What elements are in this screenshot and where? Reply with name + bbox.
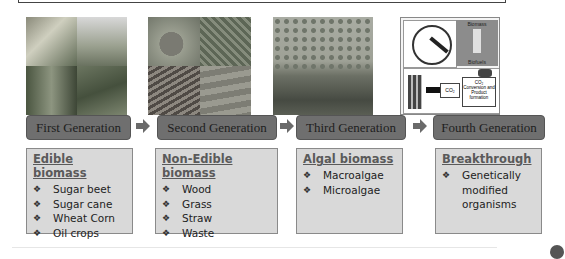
biomass-list: ❖Macroalgae ❖Microalgae — [303, 168, 396, 197]
biomass-to-biofuels-panel: Biomass Biofuels — [456, 20, 498, 66]
factory-smokestacks-icon — [408, 75, 422, 109]
bullet-icon: ❖ — [162, 226, 182, 241]
co2-conversion-panel: CO₂ CO₂ Conversion and Product formation — [403, 68, 500, 114]
list-item: ❖Wood — [162, 182, 271, 197]
biofuels-label: Biofuels — [456, 59, 498, 65]
list-item: ❖Wheat Corn — [33, 211, 126, 226]
first-generation-image — [26, 17, 127, 115]
sugarcane-photo — [26, 17, 77, 66]
bullet-icon: ❖ — [33, 226, 53, 241]
right-arrow-icon — [280, 119, 294, 133]
item-label: Sugar beet — [53, 182, 111, 197]
category-heading: Non-Edible biomass — [162, 152, 271, 180]
microalgae-cells — [273, 17, 373, 71]
genetic-engineering-panel — [403, 20, 457, 68]
item-label: Microalgae — [323, 183, 380, 198]
first-generation-box: Edible biomass ❖Sugar beet ❖Sugar cane ❖… — [26, 148, 133, 234]
bullet-icon: ❖ — [303, 183, 323, 198]
second-generation-image — [148, 17, 251, 115]
co2-box: CO₂ — [440, 83, 460, 98]
top-frame-border — [18, 0, 506, 3]
biomass-list: ❖Sugar beet ❖Sugar cane ❖Wheat Corn ❖Oil… — [33, 182, 126, 240]
item-label: Sugar cane — [53, 197, 112, 212]
fourth-generation-box: Breakthrough ❖Genetically modified organ… — [435, 148, 542, 234]
list-item: ❖Grass — [162, 197, 271, 212]
bullet-icon: ❖ — [33, 182, 53, 197]
down-arrow-icon — [473, 29, 481, 53]
bullet-icon: ❖ — [33, 197, 53, 212]
list-item: ❖Microalgae — [303, 183, 396, 198]
conversion-text: Conversion and Product formation — [463, 85, 495, 100]
third-generation-box: Algal biomass ❖Macroalgae ❖Microalgae — [296, 148, 403, 234]
bullet-icon: ❖ — [33, 211, 53, 226]
conversion-box: CO₂ Conversion and Product formation — [462, 77, 496, 107]
item-label: Grass — [182, 197, 212, 212]
item-label: Straw — [182, 211, 212, 226]
bullet-icon: ❖ — [162, 197, 182, 212]
right-arrow-icon — [413, 119, 427, 133]
dna-wrench-icon — [412, 25, 452, 65]
item-label: Waste — [182, 226, 214, 241]
biomass-label: Biomass — [456, 21, 498, 27]
second-generation-label: Second Generation — [157, 115, 277, 140]
third-generation-image — [273, 17, 373, 115]
bullet-icon: ❖ — [162, 211, 182, 226]
right-arrow-icon — [136, 119, 150, 133]
field-photo — [77, 17, 128, 66]
second-generation-box: Non-Edible biomass ❖Wood ❖Grass ❖Straw ❖… — [155, 148, 278, 234]
item-label: Genetically modified organisms — [462, 168, 532, 212]
scroll-top-icon[interactable] — [550, 245, 564, 259]
waste-photo — [148, 66, 200, 115]
bullet-icon: ❖ — [442, 168, 462, 212]
list-item: ❖Macroalgae — [303, 168, 396, 183]
item-label: Wheat Corn — [53, 211, 115, 226]
cane-stalks-photo — [26, 66, 77, 115]
wood-photo — [200, 66, 252, 115]
list-item: ❖Straw — [162, 211, 271, 226]
item-label: Macroalgae — [323, 168, 384, 183]
third-generation-label: Third Generation — [296, 115, 406, 140]
bullet-icon: ❖ — [303, 168, 323, 183]
list-item: ❖Oil crops — [33, 226, 126, 241]
biomass-list: ❖Wood ❖Grass ❖Straw ❖Waste — [162, 182, 271, 240]
crops-photo — [77, 66, 128, 115]
arrow-icon — [426, 87, 440, 93]
grass-photo — [200, 17, 252, 66]
fourth-generation-image: Biomass Biofuels CO₂ CO₂ Conversion and … — [400, 17, 500, 115]
algae-cells-icon — [478, 69, 492, 77]
first-generation-label: First Generation — [26, 115, 131, 140]
list-item: ❖Sugar beet — [33, 182, 126, 197]
list-item: ❖Waste — [162, 226, 271, 241]
biomass-list: ❖Genetically modified organisms — [442, 168, 535, 212]
list-item: ❖Genetically modified organisms — [442, 168, 535, 212]
straw-bale-photo — [148, 17, 200, 66]
bullet-icon: ❖ — [162, 182, 182, 197]
divider — [12, 247, 497, 248]
item-label: Wood — [182, 182, 211, 197]
category-heading: Edible biomass — [33, 152, 126, 180]
category-heading: Breakthrough — [442, 152, 535, 166]
category-heading: Algal biomass — [303, 152, 396, 166]
list-item: ❖Sugar cane — [33, 197, 126, 212]
fourth-generation-label: Fourth Generation — [433, 115, 545, 140]
item-label: Oil crops — [53, 226, 99, 241]
